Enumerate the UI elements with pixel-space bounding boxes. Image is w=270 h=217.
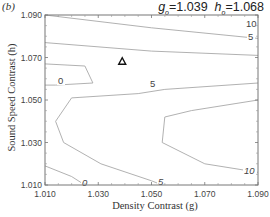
contour-line-0 xyxy=(45,166,85,185)
contour-line-0 xyxy=(45,64,93,85)
contour-lines xyxy=(45,15,258,185)
x-tick-label: 1.030 xyxy=(88,189,110,199)
contour-label: 10 xyxy=(246,18,257,29)
contour-label: 0 xyxy=(82,177,88,188)
contour-line-5 xyxy=(56,83,258,185)
contour-label: 5 xyxy=(248,31,253,42)
y-tick-label: 1.050 xyxy=(21,95,43,105)
contour-line-10 xyxy=(45,15,258,38)
triangle-marker xyxy=(119,58,126,65)
x-axis-label: Density Contrast (g) xyxy=(60,200,250,211)
contour-label: 10 xyxy=(244,165,255,176)
contour-labels: 105050105 xyxy=(57,18,259,188)
x-tick-label: 1.050 xyxy=(141,189,163,199)
y-tick-label: 1.090 xyxy=(21,10,43,20)
plot-frame xyxy=(45,15,258,185)
contour-label: 0 xyxy=(58,75,63,86)
x-tick-label: 1.010 xyxy=(34,189,56,199)
contour-label: 5 xyxy=(150,78,155,89)
contour-line-5 xyxy=(45,43,258,56)
y-axis-label: Sound Speed Contrast (h) xyxy=(6,33,17,163)
y-tick-label: 1.010 xyxy=(21,180,43,190)
triangle-icon xyxy=(119,58,126,65)
x-tick-label: 1.090 xyxy=(247,189,269,199)
contour-chart: 105050105 1.0101.0301.0501.0701.0901.010… xyxy=(0,0,270,217)
x-tick-label: 1.070 xyxy=(194,189,216,199)
contour-line-10 xyxy=(162,100,258,172)
y-tick-label: 1.070 xyxy=(21,53,43,63)
y-tick-label: 1.030 xyxy=(21,138,43,148)
